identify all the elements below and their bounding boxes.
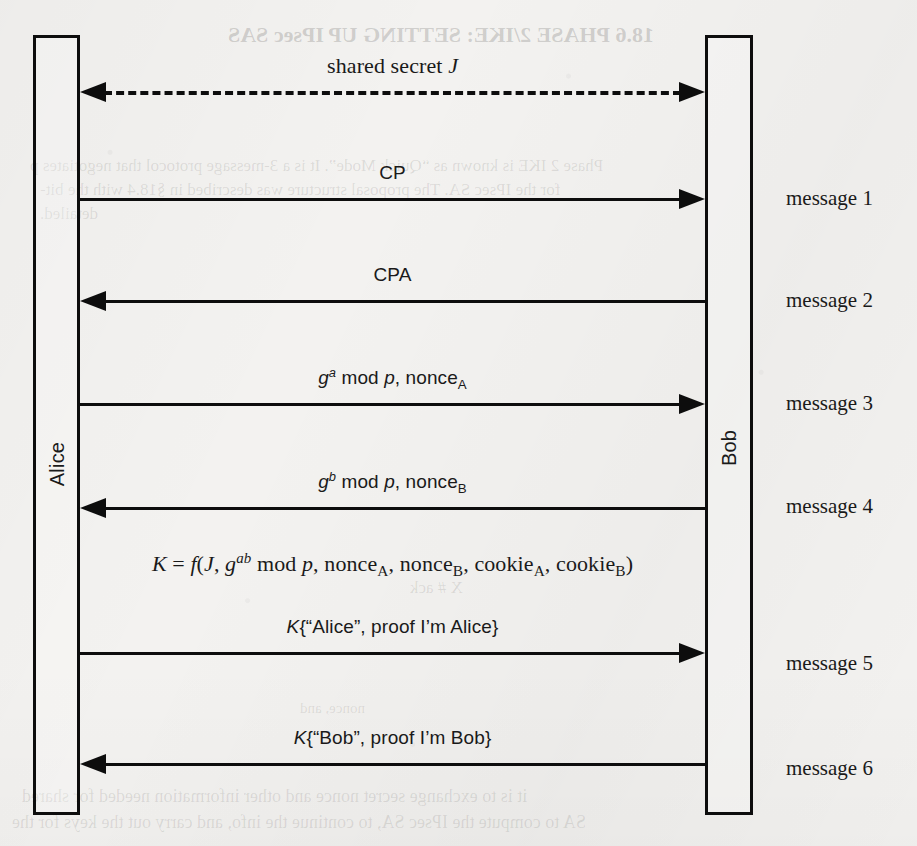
message-caption-4: message 4 [786, 494, 873, 519]
formula-token: J [204, 551, 214, 576]
message-arrowhead-1 [679, 189, 705, 209]
message-caption-1: message 1 [786, 186, 873, 211]
formula-token: ab [236, 550, 251, 566]
message-label-5: K{“Alice”, proof I’m Alice} [287, 616, 499, 638]
formula-token: , nonce [313, 551, 377, 576]
formula-token: p [384, 471, 395, 492]
message-arrowhead-3 [679, 394, 705, 414]
message-arrow-line-1 [80, 198, 683, 201]
formula-token: a [329, 365, 336, 380]
formula-token: B [453, 562, 463, 579]
formula-token: {“Bob”, proof I’m Bob} [306, 727, 491, 748]
paper-texture [0, 0, 917, 846]
message-caption-3: message 3 [786, 391, 873, 416]
formula-token: A [377, 562, 388, 579]
message-label-1: CP [379, 162, 406, 184]
formula-token: CPA [374, 264, 412, 285]
message-label-3: ga mod p, nonceA [318, 367, 467, 389]
figure-canvas: 18.6 PHASE 2/IKE: SETTING UP IPsec SASPh… [0, 0, 917, 846]
shared-secret-arrowhead-right [679, 82, 705, 102]
message-label-4: gb mod p, nonceB [318, 471, 467, 493]
formula-token: CP [379, 162, 406, 183]
message-arrowhead-2 [80, 291, 106, 311]
message-arrow-line-4 [102, 507, 705, 510]
formula-token: , nonce [395, 471, 458, 492]
message-arrowhead-6 [80, 754, 106, 774]
formula-token: mod [336, 367, 384, 388]
shared-secret-arrowhead-left [80, 82, 106, 102]
message-arrowhead-4 [80, 498, 106, 518]
bleed-through-text: nonce, and [300, 700, 365, 717]
formula-token: ) [626, 551, 633, 576]
formula-token: A [534, 562, 545, 579]
bleed-through-text: for the IPsec SA. The proposal structure… [40, 180, 560, 200]
formula-token: A [458, 377, 467, 392]
formula-token: g [225, 551, 236, 576]
shared-secret-dashed-line [104, 91, 681, 95]
formula-token: {“Alice”, proof I’m Alice} [299, 616, 498, 637]
formula-token: , cookie [545, 551, 615, 576]
bleed-through-text: Phase 2 IKE is known as “Quick Mode”. It… [30, 156, 603, 176]
formula-token: , [214, 551, 225, 576]
formula-token: K [152, 551, 167, 576]
message-caption-6: message 6 [786, 756, 873, 781]
formula-token: mod [251, 551, 302, 576]
formula-token: K [294, 727, 307, 748]
formula-token: B [458, 481, 467, 496]
message-caption-5: message 5 [786, 651, 873, 676]
bleed-through-text: 18.6 PHASE 2/IKE: SETTING UP IPsec SAS [228, 22, 654, 48]
formula-token: b [329, 469, 336, 484]
message-arrow-line-6 [102, 763, 705, 766]
formula-token: B [615, 562, 625, 579]
message-arrow-line-5 [80, 652, 683, 655]
bleed-through-text: it is to exchange secret nonce and other… [22, 786, 527, 807]
message-arrowhead-5 [679, 643, 705, 663]
message-label-2: CPA [374, 264, 412, 286]
principal-alice-lifeline: Alice [33, 35, 80, 815]
formula-token: p [384, 367, 395, 388]
formula-token: K [287, 616, 300, 637]
formula-token: J [448, 53, 458, 78]
message-arrow-line-3 [80, 403, 683, 406]
message-caption-2: message 2 [786, 288, 873, 313]
formula-token: , nonce [395, 367, 458, 388]
shared-secret-label: shared secret J [327, 53, 458, 79]
formula-token: shared secret [327, 53, 448, 78]
bleed-through-text: X # ack [410, 578, 463, 598]
formula-token: g [318, 471, 329, 492]
formula-token: mod [336, 471, 384, 492]
key-derivation-formula: K = f(J, gab mod p, nonceA, nonceB, cook… [152, 551, 633, 577]
formula-token: p [302, 551, 313, 576]
formula-token: = [167, 551, 191, 576]
formula-token: , nonce [389, 551, 453, 576]
message-arrow-line-2 [102, 300, 705, 303]
bleed-through-text: SA to compute the IPsec SA, to continue … [12, 812, 586, 833]
principal-alice-label: Alice [45, 442, 68, 486]
principal-bob-label: Bob [718, 430, 741, 466]
message-label-6: K{“Bob”, proof I’m Bob} [294, 727, 492, 749]
principal-bob-lifeline: Bob [705, 35, 753, 815]
formula-token: g [318, 367, 329, 388]
formula-token: , cookie [463, 551, 533, 576]
